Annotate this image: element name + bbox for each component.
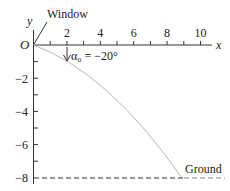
y-tick-label: −4 bbox=[15, 105, 28, 119]
ground-label: Ground bbox=[185, 162, 222, 176]
x-tick-label: 8 bbox=[164, 26, 170, 40]
y-tick-label: −6 bbox=[15, 138, 28, 152]
origin-label: O bbox=[20, 37, 30, 52]
x-tick-label: 4 bbox=[97, 26, 103, 40]
y-tick-label: −2 bbox=[15, 72, 28, 86]
x-ticks bbox=[50, 41, 200, 45]
window-pointer-line bbox=[34, 22, 47, 44]
x-tick-label: 6 bbox=[131, 26, 137, 40]
y-ticks bbox=[34, 62, 39, 162]
x-tick-label: 10 bbox=[195, 26, 207, 40]
angle-label: α₀ = −20° bbox=[71, 49, 118, 63]
window-label: Window bbox=[47, 7, 88, 21]
y-tick-label: −8 bbox=[15, 171, 28, 185]
x-axis-label: x bbox=[215, 38, 222, 52]
x-tick-label: 2 bbox=[64, 26, 70, 40]
y-axis-label: y bbox=[26, 14, 33, 28]
trajectory-curve bbox=[34, 45, 183, 178]
projectile-diagram: 2 4 6 8 10 −2 −4 −6 −8 O y x Window α₀ =… bbox=[0, 0, 230, 191]
